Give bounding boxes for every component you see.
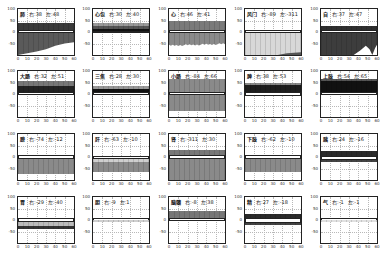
x-tick-label: 10 bbox=[98, 118, 106, 123]
y-tick-label: 0 bbox=[230, 217, 242, 222]
y-tick-label: 50 bbox=[154, 18, 166, 23]
chart-title: 胰右:24左:-16 bbox=[323, 135, 375, 142]
x-tick-label: 40 bbox=[126, 181, 134, 186]
plot-area: 肾右:-311左:30 bbox=[168, 133, 226, 181]
value-band bbox=[169, 95, 225, 111]
x-tick-label: 20 bbox=[260, 118, 268, 123]
y-tick-label: -50 bbox=[230, 41, 242, 46]
gridline bbox=[321, 232, 377, 233]
y-tick-label: -50 bbox=[230, 103, 242, 108]
organ-name: 下肢 bbox=[247, 135, 257, 142]
x-tick-label: 20 bbox=[108, 181, 116, 186]
y-tick-label: 100 bbox=[306, 194, 318, 199]
y-tick-label: -50 bbox=[78, 41, 90, 46]
y-tick-label: -50 bbox=[154, 103, 166, 108]
x-tick-label: 40 bbox=[354, 244, 362, 249]
chart-title: 风门右:-89左:-311 bbox=[247, 10, 299, 17]
x-tick-label: 40 bbox=[278, 56, 286, 61]
x-tick-label: 30 bbox=[345, 244, 353, 249]
x-tick-label: 40 bbox=[202, 56, 210, 61]
organ-name: 自 bbox=[323, 10, 328, 17]
x-tick-label: 30 bbox=[269, 181, 277, 186]
x-tick-label: 20 bbox=[184, 118, 192, 123]
y-tick-label: 100 bbox=[230, 68, 242, 73]
y-tick-label: 0 bbox=[306, 91, 318, 96]
chart-panel: 100500-500102030405060心包右:30左:40 bbox=[75, 2, 151, 64]
x-tick-label: 10 bbox=[98, 56, 106, 61]
x-tick-label: 50 bbox=[288, 118, 296, 123]
chart-title: 小肠右:-84左:66 bbox=[171, 72, 223, 79]
value-band bbox=[18, 226, 74, 229]
left-value: 左:65 bbox=[354, 72, 367, 79]
value-band bbox=[169, 211, 225, 218]
chart-title: 肾右:-311左:30 bbox=[171, 135, 223, 142]
left-value: 左:47 bbox=[349, 10, 362, 17]
y-tick-label: 0 bbox=[306, 154, 318, 159]
y-tick-label: -50 bbox=[154, 41, 166, 46]
chart-title: 三焦右:28左:30 bbox=[95, 72, 147, 79]
x-tick-label: 0 bbox=[14, 118, 22, 123]
plot-area: 肝右:-63左:-10 bbox=[92, 133, 150, 181]
organ-name: 胃 bbox=[20, 198, 25, 205]
plot-area: 肺右:38左:48 bbox=[17, 8, 75, 56]
x-tick-label: 10 bbox=[250, 56, 258, 61]
x-tick-label: 0 bbox=[317, 181, 325, 186]
left-value: 左:53 bbox=[273, 72, 286, 79]
organ-name: 肺 bbox=[20, 10, 25, 17]
organ-name: 小肠 bbox=[171, 72, 181, 79]
x-tick-label: 0 bbox=[14, 181, 22, 186]
chart-panel: 100500-500102030405060脑髓右:-8左:38 bbox=[151, 190, 227, 252]
x-tick-label: 10 bbox=[250, 244, 258, 249]
right-value: 右:-63 bbox=[104, 135, 119, 142]
right-value: 右:24 bbox=[332, 135, 345, 142]
chart-panel: 100500-500102030405060心右:46左:41 bbox=[151, 2, 227, 64]
y-tick-label: 0 bbox=[78, 91, 90, 96]
y-tick-label: 0 bbox=[3, 154, 15, 159]
x-tick-label: 10 bbox=[23, 181, 31, 186]
x-tick-label: 0 bbox=[89, 118, 97, 123]
gridline bbox=[245, 209, 301, 210]
gridline bbox=[93, 21, 149, 22]
y-tick-label: -50 bbox=[154, 229, 166, 234]
x-tick-label: 40 bbox=[202, 244, 210, 249]
left-value: 左:-311 bbox=[280, 10, 298, 17]
x-tick-label: 20 bbox=[33, 181, 41, 186]
x-tick-label: 50 bbox=[212, 181, 220, 186]
y-tick-label: -50 bbox=[306, 229, 318, 234]
y-tick-label: 50 bbox=[3, 206, 15, 211]
y-tick-label: 50 bbox=[154, 143, 166, 148]
right-value: 右:30 bbox=[109, 10, 122, 17]
y-tick-label: 0 bbox=[306, 217, 318, 222]
x-tick-label: 40 bbox=[278, 118, 286, 123]
x-tick-label: 0 bbox=[165, 56, 173, 61]
chart-panel: 100500-500102030405060小肠右:-84左:66 bbox=[151, 64, 227, 126]
chart-panel: 100500-500102030405060三焦右:28左:30 bbox=[75, 64, 151, 126]
x-tick-label: 40 bbox=[126, 56, 134, 61]
x-tick-label: 30 bbox=[117, 181, 125, 186]
right-value: 右:-74 bbox=[29, 135, 44, 142]
y-tick-label: 0 bbox=[154, 91, 166, 96]
left-value: 左:41 bbox=[197, 10, 210, 17]
left-value: 左:40 bbox=[126, 10, 139, 17]
x-tick-label: 0 bbox=[165, 244, 173, 249]
x-tick-label: 0 bbox=[89, 244, 97, 249]
x-tick-label: 10 bbox=[23, 244, 31, 249]
y-tick-label: -50 bbox=[78, 103, 90, 108]
x-tick-label: 20 bbox=[336, 181, 344, 186]
y-tick-label: 100 bbox=[3, 6, 15, 11]
x-tick-label: 20 bbox=[33, 118, 41, 123]
x-tick-label: 20 bbox=[260, 56, 268, 61]
x-tick-label: 50 bbox=[61, 244, 69, 249]
x-tick-label: 0 bbox=[89, 181, 97, 186]
chart-panel: 100500-500102030405060胆右:-9左:1 bbox=[75, 190, 151, 252]
chart-panel: 100500-500102030405060气右:-1左:-1 bbox=[303, 190, 379, 252]
organ-name: 心 bbox=[171, 10, 176, 17]
y-tick-label: 50 bbox=[78, 80, 90, 85]
x-tick-label: 50 bbox=[364, 56, 372, 61]
x-tick-label: 40 bbox=[126, 118, 134, 123]
organ-name: 脑髓 bbox=[171, 198, 181, 205]
plot-area: 上肢右:54左:65 bbox=[320, 70, 378, 118]
gridline bbox=[93, 232, 149, 233]
right-value: 右:32 bbox=[34, 72, 47, 79]
y-tick-label: 100 bbox=[78, 68, 90, 73]
